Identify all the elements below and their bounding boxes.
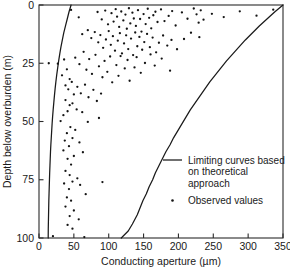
observed-value-point [156, 21, 158, 23]
observed-value-point [128, 80, 130, 82]
observed-value-point [66, 224, 68, 226]
observed-value-point [94, 31, 96, 33]
observed-value-point [66, 68, 68, 70]
observed-value-point [112, 20, 114, 22]
observed-value-point [149, 46, 151, 48]
observed-value-point [154, 11, 156, 13]
observed-value-point [68, 145, 70, 147]
observed-value-point [174, 24, 176, 26]
observed-value-point [128, 7, 130, 9]
observed-value-point [125, 34, 127, 36]
observed-value-point [152, 14, 154, 16]
x-axis-tick-label: 350 [274, 240, 290, 252]
observed-value-point [85, 69, 87, 71]
x-axis-tick-label: 50 [68, 240, 80, 252]
x-axis-tick-label: 300 [239, 240, 257, 252]
observed-value-point [62, 149, 64, 151]
observed-value-point [70, 9, 72, 11]
observed-value-point [101, 76, 103, 78]
observed-value-point [78, 141, 80, 143]
observed-value-point [142, 13, 144, 15]
observed-value-point [121, 52, 123, 54]
observed-value-point [138, 36, 140, 38]
observed-value-point [63, 58, 65, 60]
observed-value-point [193, 7, 195, 9]
y-axis-tick-label: 75 [22, 173, 34, 185]
observed-value-point [82, 151, 84, 153]
x-axis-tick-label: 100 [100, 240, 118, 252]
observed-value-point [69, 215, 71, 217]
observed-value-point [190, 32, 192, 34]
observed-value-point [116, 16, 118, 18]
observed-value-point [94, 54, 96, 56]
observed-value-point [97, 41, 99, 43]
observed-value-point [62, 114, 64, 116]
observed-value-point [102, 47, 104, 49]
legend-label-observed-values: Observed values [188, 195, 263, 206]
observed-value-point [130, 37, 132, 39]
observed-value-point [110, 44, 112, 46]
observed-value-point [76, 86, 78, 88]
observed-value-point [122, 19, 124, 21]
observed-value-point [132, 54, 134, 56]
observed-value-point [74, 57, 76, 59]
observed-value-point [66, 110, 68, 112]
observed-value-point [84, 84, 86, 86]
x-axis-tick-label: 250 [205, 240, 223, 252]
observed-value-point [147, 8, 149, 10]
observed-value-point [70, 163, 72, 165]
observed-value-point [162, 34, 164, 36]
observed-value-point [198, 22, 200, 24]
observed-value-point [117, 75, 119, 77]
observed-value-point [98, 117, 100, 119]
observed-value-point [82, 51, 84, 53]
observed-value-point [63, 182, 65, 184]
observed-value-point [76, 177, 78, 179]
observed-value-point [145, 23, 147, 25]
observed-value-point [107, 23, 109, 25]
observed-value-point [59, 120, 61, 122]
observed-value-point [143, 41, 145, 43]
observed-value-point [87, 29, 89, 31]
x-axis-tick-label: 0 [36, 240, 42, 252]
observed-value-point [101, 18, 103, 20]
observed-value-point [90, 37, 92, 39]
observed-value-point [99, 34, 101, 36]
observed-value-point [126, 28, 128, 30]
observed-value-point [69, 78, 71, 80]
observed-value-point [135, 56, 137, 58]
observed-value-point [272, 9, 274, 11]
observed-value-point [61, 74, 63, 76]
observed-value-point [154, 64, 156, 66]
observed-value-point [110, 12, 112, 14]
scatter-plot-svg: 0501001502002503003500255075100Conductin… [0, 0, 290, 267]
observed-value-point [71, 102, 73, 104]
y-axis-tick-label: 0 [28, 0, 34, 11]
observed-value-point [101, 181, 103, 183]
observed-value-point [136, 45, 138, 47]
observed-value-point [171, 10, 173, 12]
chart-figure: 0501001502002503003500255075100Conductin… [0, 0, 290, 267]
observed-value-point [71, 81, 73, 83]
y-axis-tick-label: 100 [16, 232, 34, 244]
observed-value-point [141, 49, 143, 51]
observed-value-point [105, 38, 107, 40]
observed-value-point [211, 13, 213, 15]
legend-label-limiting-curves: approach [188, 178, 230, 189]
observed-value-point [155, 51, 157, 53]
y-axis-tick-label: 50 [22, 115, 34, 127]
observed-value-point [160, 8, 162, 10]
observed-value-point [131, 12, 133, 14]
observed-value-point [109, 55, 111, 57]
observed-value-point [78, 218, 80, 220]
observed-value-point [146, 33, 148, 35]
observed-value-point [78, 16, 80, 18]
observed-value-point [137, 9, 139, 11]
observed-value-point [166, 44, 168, 46]
observed-value-point [64, 99, 66, 101]
observed-value-point [71, 180, 73, 182]
observed-value-point [88, 58, 90, 60]
legend-label-limiting-curves: on theoretical [188, 166, 248, 177]
observed-value-point [48, 62, 50, 64]
observed-value-point [118, 26, 120, 28]
